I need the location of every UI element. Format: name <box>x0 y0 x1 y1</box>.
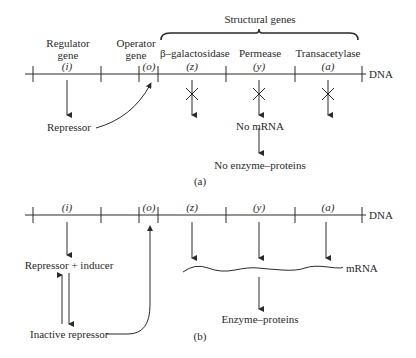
arrow-inactive-to-operator <box>106 228 150 334</box>
blocked-transcription-y <box>253 80 265 115</box>
transacetylase-label: Transacetylase <box>295 47 361 59</box>
no-enzyme-proteins-label: No enzyme–proteins <box>210 159 310 171</box>
panel-b-caption: (b) <box>190 330 210 342</box>
gene-symbol-y-b: (y) <box>249 201 269 213</box>
gene-symbol-i-b: (i) <box>57 201 77 213</box>
dna-label-a: DNA <box>369 68 393 80</box>
gene-symbol-o-a: (o) <box>139 60 159 72</box>
gene-symbol-o-b: (o) <box>139 201 159 213</box>
permease-label: Permease <box>236 47 284 59</box>
blocked-transcription-z <box>186 80 198 115</box>
structural-genes-label: Structural genes <box>220 13 300 25</box>
mrna-label: mRNA <box>346 262 378 274</box>
operator-gene-label: Operator gene <box>112 37 160 61</box>
inactive-repressor-label: Inactive repressor <box>30 328 106 340</box>
gene-symbol-a-b: (a) <box>318 201 338 213</box>
gene-symbol-z-b: (z) <box>182 201 202 213</box>
gene-symbol-i-a: (i) <box>57 60 77 72</box>
regulator-gene-label: Regulator gene <box>40 37 96 61</box>
no-mrna-label: No mRNA <box>230 120 290 132</box>
repressor-inducer-label: Repressor + inducer <box>24 259 114 271</box>
beta-galactosidase-label: β–galactosidase <box>160 47 224 59</box>
gene-symbol-y-a: (y) <box>249 60 269 72</box>
repressor-label: Repressor <box>44 121 94 133</box>
mrna-strand <box>183 266 343 272</box>
dna-label-b: DNA <box>369 209 393 221</box>
panel-a-caption: (a) <box>190 175 210 187</box>
gene-symbol-z-a: (z) <box>182 60 202 72</box>
arrow-repressor-to-operator <box>96 85 150 128</box>
structural-genes-brace <box>161 29 358 40</box>
enzyme-proteins-label: Enzyme–proteins <box>220 313 300 325</box>
blocked-transcription-a <box>322 80 334 115</box>
gene-symbol-a-a: (a) <box>318 60 338 72</box>
